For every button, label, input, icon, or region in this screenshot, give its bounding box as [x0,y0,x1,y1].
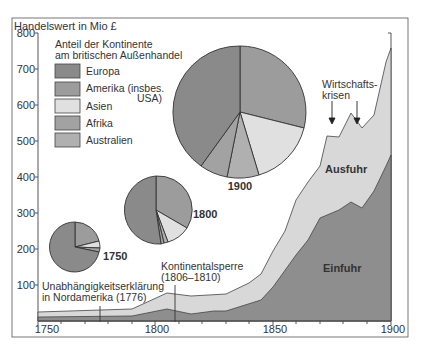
area-label-ausfuhr: Ausfuhr [325,163,368,175]
legend-label-amerika-2: USA) [137,92,162,104]
area-label-einfuhr: Einfuhr [323,262,362,274]
pie-label-1800: 1800 [193,208,217,220]
x-tick-1750: 1750 [35,323,59,335]
x-tick-1850: 1850 [263,323,287,335]
legend-swatch-australien [55,133,80,147]
y-tick-200: 200 [17,243,35,255]
legend-swatch-afrika [55,116,80,130]
annotation-unabhaengigkeit-2: in Nordamerika (1776) [42,291,146,303]
pie-label-1900: 1900 [228,180,252,192]
y-tick-300: 300 [17,207,35,219]
pie-1900 [173,46,306,178]
legend-label-europa: Europa [86,65,120,77]
y-tick-600: 600 [17,99,35,111]
legend-label-asien: Asien [86,100,112,112]
legend-title-line2: am britischen Außenhandel [55,49,182,61]
y-tick-100: 100 [17,279,35,291]
trade-chart: Handelswert in Mio £ 800 700 600 500 400… [0,0,426,358]
pie-1750 [50,222,100,272]
legend-label-afrika: Afrika [86,117,113,129]
legend-swatch-asien [55,99,80,113]
annotation-kontinentalsperre-2: (1806–1810) [161,271,221,283]
pie-1800 [124,176,192,244]
y-tick-500: 500 [17,135,35,147]
y-tick-400: 400 [17,171,35,183]
y-tick-700: 700 [17,63,35,75]
pie-label-1750: 1750 [103,250,127,262]
x-tick-1900: 1900 [381,323,405,335]
y-tick-800: 800 [17,27,35,39]
legend-swatch-amerika [55,82,80,96]
legend-swatch-europa [55,64,80,78]
annotation-wirtschaftskrisen-2: krisen [322,89,350,101]
legend-label-australien: Australien [86,134,133,146]
x-tick-1800: 1800 [145,323,169,335]
